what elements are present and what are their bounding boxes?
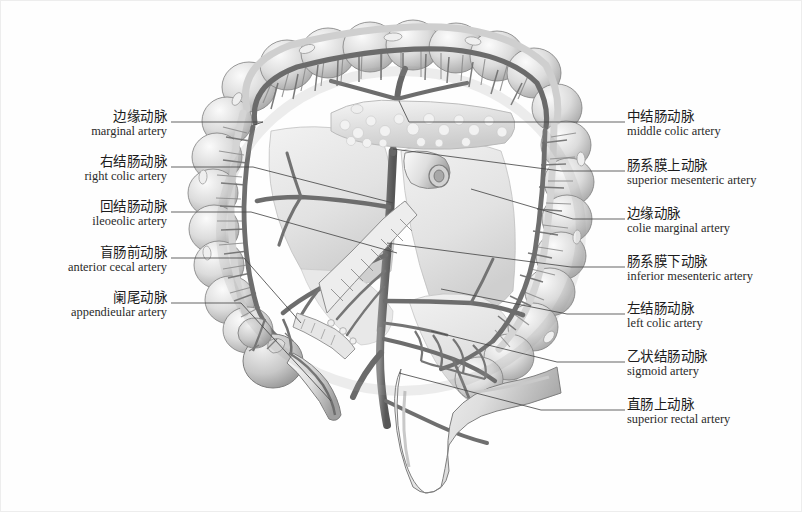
label-sigmoid-artery-en: sigmoid artery [627, 365, 707, 379]
label-inferior-mesenteric-artery[interactable]: 肠系膜下动脉 inferior mesenteric artery [627, 254, 753, 284]
label-right-colic-artery[interactable]: 右结肠动脉 right colic artery [84, 154, 167, 184]
label-colic-marginal-artery-cn: 边缘动脉 [627, 206, 730, 221]
label-appendicular-artery-en: appendieular artery [71, 306, 167, 320]
label-middle-colic-artery-en: middle colic artery [627, 125, 721, 139]
label-sigmoid-artery[interactable]: 乙状结肠动脉 sigmoid artery [627, 349, 707, 379]
label-marginal-artery-cn: 边缘动脉 [91, 109, 167, 124]
label-middle-colic-artery-cn: 中结肠动脉 [627, 109, 721, 124]
label-superior-mesenteric-artery-en: superior mesenteric artery [627, 174, 756, 188]
label-ileocolic-artery[interactable]: 回结肠动脉 ileoeolic artery [92, 199, 167, 229]
label-superior-mesenteric-artery[interactable]: 肠系膜上动脉 superior mesenteric artery [627, 158, 756, 188]
label-superior-rectal-artery-en: superior rectal artery [627, 413, 730, 427]
retroperitoneal-fat [331, 100, 515, 149]
label-ileocolic-artery-en: ileoeolic artery [92, 215, 167, 229]
label-anterior-cecal-artery-en: anterior cecal artery [68, 261, 167, 275]
label-inferior-mesenteric-artery-cn: 肠系膜下动脉 [627, 254, 753, 269]
figure-canvas: 边缘动脉 marginal artery 右结肠动脉 right colic a… [0, 0, 802, 512]
label-marginal-artery-en: marginal artery [91, 125, 167, 139]
label-middle-colic-artery[interactable]: 中结肠动脉 middle colic artery [627, 109, 721, 139]
label-colic-marginal-artery-en: colie marginal artery [627, 222, 730, 236]
label-left-colic-artery[interactable]: 左结肠动脉 left colic artery [627, 301, 703, 331]
label-colic-marginal-artery[interactable]: 边缘动脉 colie marginal artery [627, 206, 730, 236]
label-anterior-cecal-artery-cn: 盲肠前动脉 [68, 245, 167, 260]
label-marginal-artery[interactable]: 边缘动脉 marginal artery [91, 109, 167, 139]
label-superior-rectal-artery[interactable]: 直肠上动脉 superior rectal artery [627, 397, 730, 427]
label-superior-mesenteric-artery-cn: 肠系膜上动脉 [627, 158, 756, 173]
label-ileocolic-artery-cn: 回结肠动脉 [92, 199, 167, 214]
label-superior-rectal-artery-cn: 直肠上动脉 [627, 397, 730, 412]
label-anterior-cecal-artery[interactable]: 盲肠前动脉 anterior cecal artery [68, 245, 167, 275]
label-appendicular-artery-cn: 阑尾动脉 [71, 290, 167, 305]
label-left-colic-artery-en: left colic artery [627, 317, 703, 331]
label-right-colic-artery-cn: 右结肠动脉 [84, 154, 167, 169]
label-right-colic-artery-en: right colic artery [84, 170, 167, 184]
label-inferior-mesenteric-artery-en: inferior mesenteric artery [627, 270, 753, 284]
label-appendicular-artery[interactable]: 阑尾动脉 appendieular artery [71, 290, 167, 320]
label-left-colic-artery-cn: 左结肠动脉 [627, 301, 703, 316]
label-sigmoid-artery-cn: 乙状结肠动脉 [627, 349, 707, 364]
